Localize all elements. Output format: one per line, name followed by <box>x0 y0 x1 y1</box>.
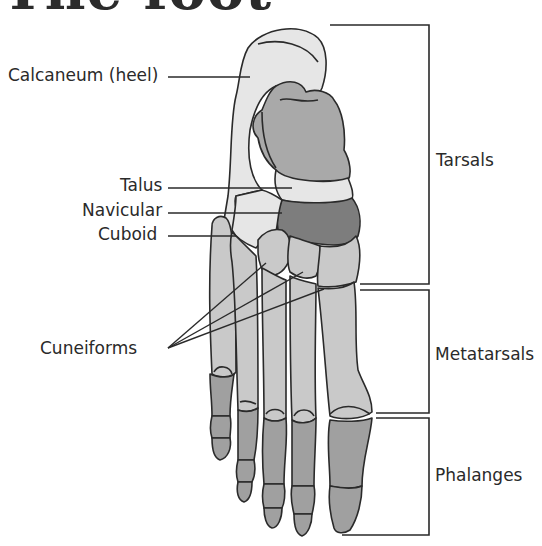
phalanx-2-distal <box>294 514 312 536</box>
metatarsals-bracket <box>360 290 429 413</box>
phalanx-1-distal <box>329 486 362 533</box>
phalanx-3-distal <box>264 508 282 528</box>
metatarsals-label: Metatarsals <box>435 346 534 363</box>
phalanx-5-proximal <box>210 374 234 416</box>
phalanx-2-proximal <box>292 418 316 486</box>
navicular-label: Navicular <box>82 202 162 219</box>
phalanx-5-distal <box>212 438 231 460</box>
calcaneum-label: Calcaneum (heel) <box>8 67 158 84</box>
phalanx-1-proximal <box>328 418 372 488</box>
phalanges-label: Phalanges <box>435 467 522 484</box>
metatarsal-3 <box>262 268 286 421</box>
phalanx-3-middle <box>263 484 285 508</box>
metatarsal-1 <box>318 282 372 419</box>
phalanx-2-middle <box>291 486 315 514</box>
metatarsal-2 <box>290 276 316 423</box>
phalanx-4-middle <box>237 460 255 482</box>
foot-diagram: The foot <box>0 0 542 546</box>
talus-label: Talus <box>120 177 162 194</box>
talus-bone <box>253 82 350 182</box>
phalanx-4-proximal <box>238 408 258 460</box>
cuboid-label: Cuboid <box>98 226 157 243</box>
phalanx-5-middle <box>211 416 231 438</box>
tarsals-label: Tarsals <box>436 152 494 169</box>
phalanx-3-proximal <box>263 418 287 484</box>
phalanx-4-distal <box>237 482 252 502</box>
cuneiforms-label: Cuneiforms <box>40 340 137 357</box>
